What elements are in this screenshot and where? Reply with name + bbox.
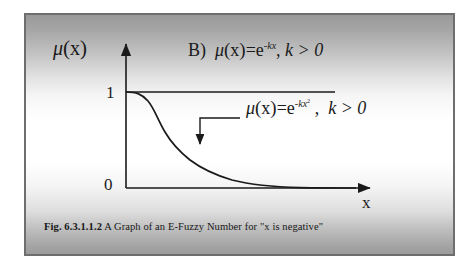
y-axis-close-paren: ) <box>80 36 87 60</box>
formula-exponential: B) μ(x)=e-kx, k > 0 <box>188 41 323 60</box>
formula-gauss-variable: x <box>261 98 270 118</box>
formula-gauss-mu: μ <box>246 98 255 118</box>
y-axis-open-paren: ( <box>63 36 70 60</box>
formula-b-variable: x <box>230 40 239 60</box>
y-axis-variable: x <box>70 37 80 59</box>
formula-gauss-exponent-power: 2 <box>307 97 310 104</box>
y-tick-label-zero: 0 <box>104 176 113 193</box>
figure-caption-label: Fig. 6.3.1.1.2 <box>44 221 102 232</box>
figure-page: μ(x) 1 0 x B) μ(x)=e-kx, k > 0 μ(x)=e-kx… <box>0 0 476 272</box>
formula-b-equals: = <box>246 40 256 60</box>
case-label-b: B) <box>188 40 206 60</box>
formula-b-base: e <box>256 40 264 60</box>
y-tick-label-one: 1 <box>106 84 115 101</box>
y-axis-mu-symbol: μ <box>53 37 63 59</box>
figure-caption-text: A Graph of an E-Fuzzy Number for "x is n… <box>104 221 323 232</box>
formula-b-mu: μ <box>215 40 224 60</box>
y-axis-title: μ(x) <box>53 38 87 59</box>
formula-gauss-exponent: -kx2 <box>295 98 310 109</box>
formula-b-comma: , <box>276 40 281 60</box>
formula-gauss-exponent-text: -kx <box>295 98 307 109</box>
formula-b-condition: k > 0 <box>285 40 323 60</box>
formula-gaussian: μ(x)=e-kx2 , k > 0 <box>246 98 366 118</box>
formula-b-exponent: -kx <box>264 40 276 51</box>
formula-gauss-condition: k > 0 <box>328 98 366 118</box>
formula-gauss-base: e <box>287 98 295 118</box>
formula-gauss-comma: , <box>315 98 320 118</box>
x-axis-title: x <box>362 194 371 211</box>
annotation-leader-line <box>200 118 240 144</box>
figure-caption: Fig. 6.3.1.1.2 A Graph of an E-Fuzzy Num… <box>44 222 323 233</box>
formula-gauss-equals: = <box>277 98 287 118</box>
